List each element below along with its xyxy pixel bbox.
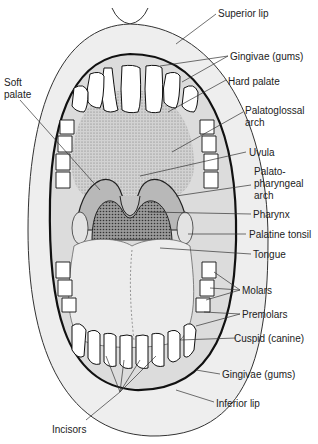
label-superior-lip: Superior lip — [218, 8, 269, 19]
label-incisors: Incisors — [52, 424, 86, 435]
tonsil-left — [72, 212, 88, 244]
label-molars: Molars — [242, 285, 272, 296]
label-gingivae-upper: Gingivae (gums) — [230, 51, 303, 62]
label-palatopharyngeal-line1: Palato- — [254, 166, 286, 177]
label-cuspid: Cuspid (canine) — [234, 333, 304, 344]
label-palatoglossal-line2: arch — [245, 117, 264, 128]
label-palatine-tonsil: Palatine tonsil — [249, 229, 311, 240]
label-palatoglossal-line1: Palatoglossal — [245, 105, 304, 116]
philtrum — [112, 8, 148, 24]
label-palatopharyngeal-line3: arch — [254, 190, 273, 201]
label-uvula: Uvula — [249, 147, 275, 158]
label-palatopharyngeal-line2: pharyngeal — [254, 178, 303, 189]
label-hard-palate: Hard palate — [228, 76, 280, 87]
label-soft-palate-line2: palate — [4, 89, 31, 100]
tonsil-right — [177, 212, 193, 244]
label-gingivae-lower: Gingivae (gums) — [222, 369, 295, 380]
label-pharynx: Pharynx — [253, 209, 290, 220]
label-soft-palate-line1: Soft — [4, 77, 22, 88]
label-inferior-lip: Inferior lip — [216, 398, 260, 409]
label-premolars: Premolars — [242, 309, 288, 320]
label-tongue: Tongue — [253, 249, 286, 260]
